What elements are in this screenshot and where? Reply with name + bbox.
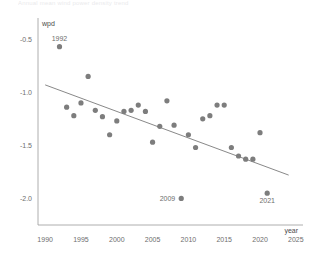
data-point [157,124,162,129]
data-point-label: 2021 [259,197,275,204]
data-point [171,123,176,128]
y-tick-label: -1.5 [20,142,32,149]
data-point [207,113,212,118]
data-point [214,102,219,107]
data-point-label: 2009 [160,195,176,202]
data-point [136,102,141,107]
x-tick-label: 1995 [73,236,89,243]
y-tick-label: -0.5 [20,36,32,43]
data-point-label: 1992 [52,35,68,42]
data-point [236,153,241,158]
axes-group [38,18,303,225]
data-point [129,108,134,113]
y-tick-label: -2.0 [20,195,32,202]
data-point [257,130,262,135]
data-point [200,116,205,121]
data-point [229,145,234,150]
x-tick-label-group: 19901995200020052010201520202025 [37,236,303,243]
scatter-plot-canvas: -0.5-1.0-1.5-2.0 19901995200020052010201… [0,0,314,262]
data-point [222,102,227,107]
data-point [107,132,112,137]
data-point [179,196,184,201]
data-points-group [57,44,270,201]
x-axis-title: year [284,227,298,235]
y-tick-label-group: -0.5-1.0-1.5-2.0 [20,36,32,202]
data-point [265,191,270,196]
data-point [243,157,248,162]
data-point [71,113,76,118]
data-point [100,114,105,119]
data-point [78,100,83,105]
x-tick-label: 2005 [145,236,161,243]
y-axis-title: wpd [41,20,55,28]
data-point [193,145,198,150]
chart-figure: Annual mean wind power density trend -0.… [0,0,314,262]
data-point [86,74,91,79]
data-point [250,157,255,162]
data-point [121,109,126,114]
x-tick-label: 2015 [216,236,232,243]
data-point [186,132,191,137]
data-point [143,109,148,114]
data-point [93,108,98,113]
data-point [114,118,119,123]
data-point [164,98,169,103]
x-tick-label: 2000 [109,236,125,243]
data-point [150,140,155,145]
faded-header-text: Annual mean wind power density trend [18,0,218,10]
x-tick-label: 2020 [252,236,268,243]
x-tick-label: 2025 [288,236,304,243]
y-tick-label: -1.0 [20,89,32,96]
x-tick-label: 1990 [37,236,53,243]
x-tick-label: 2010 [181,236,197,243]
data-point [64,105,69,110]
data-point [57,44,62,49]
point-label-group: 199220092021 [52,35,275,204]
